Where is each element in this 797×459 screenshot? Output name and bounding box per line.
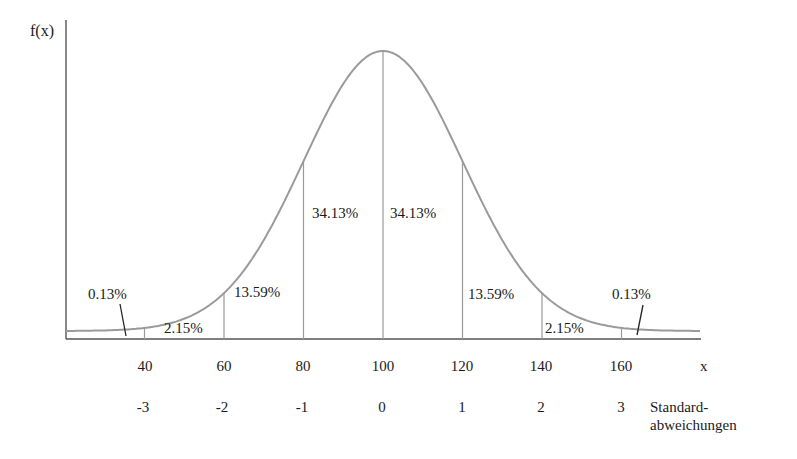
- sd-tick-3: 3: [617, 399, 625, 416]
- x-tick-140: 140: [530, 358, 553, 375]
- x-tick-120: 120: [451, 358, 474, 375]
- sd-tick-minus3: -3: [137, 399, 150, 416]
- sd-tick-minus1: -1: [296, 399, 309, 416]
- normal-distribution-diagram: [0, 0, 797, 459]
- sd-tick-0: 0: [378, 399, 386, 416]
- region-label-right-tail: 0.13%: [612, 286, 651, 303]
- y-axis-label: f(x): [30, 22, 54, 39]
- sigma-dividers: [145, 51, 622, 339]
- x-tick-40: 40: [138, 358, 153, 375]
- region-label-mean-plus1: 34.13%: [390, 205, 436, 222]
- x-tick-80: 80: [296, 358, 311, 375]
- region-label-left-tail: 0.13%: [88, 286, 127, 303]
- x-axis-label: x: [700, 358, 708, 375]
- region-label-plus2-plus3: 2.15%: [545, 320, 584, 337]
- x-tick-160: 160: [610, 358, 633, 375]
- sd-axis-label-line1: Standard-: [650, 399, 708, 416]
- sd-tick-2: 2: [537, 399, 545, 416]
- region-label-minus1-mean: 34.13%: [312, 205, 358, 222]
- sd-tick-minus2: -2: [216, 399, 229, 416]
- region-label-plus1-plus2: 13.59%: [468, 286, 514, 303]
- region-label-minus3-minus2: 2.15%: [164, 320, 203, 337]
- sd-axis-label-line2: abweichungen: [650, 417, 737, 434]
- region-label-minus2-minus1: 13.59%: [234, 284, 280, 301]
- left-tail-pointer: [120, 304, 126, 336]
- x-tick-60: 60: [217, 358, 232, 375]
- x-tick-100: 100: [372, 358, 395, 375]
- sd-tick-1: 1: [458, 399, 466, 416]
